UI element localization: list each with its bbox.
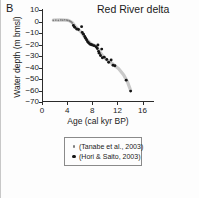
data-point (57, 20, 59, 22)
black-dot-icon (69, 155, 79, 159)
data-point (62, 19, 64, 21)
legend-label: (Hori & Saito, 2003) (79, 152, 140, 161)
data-plot (42, 10, 152, 102)
data-point (71, 22, 73, 24)
x-tick-label: 0 (32, 106, 52, 115)
data-point (96, 44, 99, 47)
x-tick-mark (42, 102, 43, 105)
data-point (67, 20, 69, 22)
data-point (55, 19, 57, 21)
legend-label: (Tanabe et al., 2003) (79, 142, 143, 151)
data-point (77, 28, 80, 31)
data-point (52, 20, 54, 22)
data-point (105, 58, 108, 61)
x-axis-label: Age (cal kyr BP) (42, 116, 154, 126)
sea-level-trend-band (53, 20, 130, 91)
data-point (96, 47, 99, 50)
x-tick-label: 12 (107, 106, 127, 115)
data-point (129, 90, 132, 93)
data-point (125, 79, 128, 82)
x-tick-label: 16 (133, 106, 153, 115)
x-tick-mark (92, 102, 93, 105)
legend: (Tanabe et al., 2003) (Hori & Saito, 200… (64, 137, 142, 166)
x-tick-mark (117, 102, 118, 105)
y-axis-label: Water depth (m bmsl) (12, 9, 22, 105)
legend-item: (Tanabe et al., 2003) (69, 142, 138, 151)
data-point (110, 59, 113, 62)
data-point (103, 56, 106, 59)
x-tick-label: 8 (82, 106, 102, 115)
legend-item: (Hori & Saito, 2003) (69, 152, 138, 161)
data-point (113, 64, 116, 67)
x-tick-mark (143, 102, 144, 105)
data-point (60, 19, 62, 21)
data-point (107, 61, 110, 64)
small-gray-dot-icon (69, 145, 79, 148)
plot-area (42, 10, 152, 102)
x-tick-mark (67, 102, 68, 105)
data-point (100, 48, 103, 51)
data-point (80, 25, 83, 28)
figure-panel-b: B Red River delta 100−10−20−30−40−50−60−… (0, 0, 199, 198)
data-point (99, 54, 102, 57)
x-tick-label: 4 (57, 106, 77, 115)
data-point (64, 19, 66, 21)
